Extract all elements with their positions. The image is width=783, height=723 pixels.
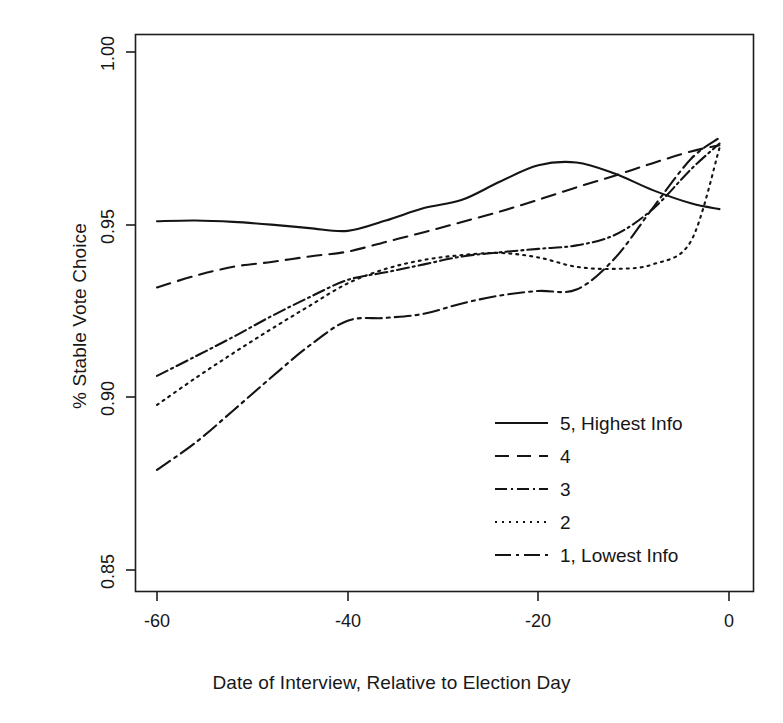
figure-container: 0.85 0.90 0.95 1.00 -60 -40 -20 0 Date o… [0,0,783,723]
x-axis-ticks [157,592,729,602]
legend-label-2: 2 [560,512,571,534]
legend-label-5-highest-info: 5, Highest Info [560,413,683,435]
y-tick-label-3: 1.00 [98,24,119,84]
legend-label-4: 4 [560,446,571,468]
x-tick-label-2: -20 [508,611,568,632]
x-tick-label-3: 0 [699,611,759,632]
series-line-5-highest-info [157,162,719,231]
y-axis-title: % Stable Vote Choice [69,36,91,596]
legend-label-3: 3 [560,479,571,501]
y-tick-label-2: 0.95 [98,197,119,257]
line-chart-plot [0,0,783,723]
legend-label-1-lowest-info: 1, Lowest Info [560,545,678,567]
series-line-4 [157,145,719,287]
series-line-2 [157,148,719,405]
y-axis-ticks [126,52,136,570]
y-tick-label-1: 0.90 [98,369,119,429]
x-tick-label-0: -60 [127,611,187,632]
series-line-3 [157,144,719,376]
plot-frame [136,35,754,592]
x-axis-title: Date of Interview, Relative to Election … [0,672,783,694]
x-tick-label-1: -40 [318,611,378,632]
y-tick-label-0: 0.85 [98,542,119,602]
